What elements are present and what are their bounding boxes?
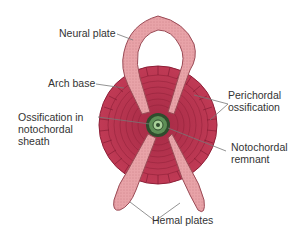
vertebra-diagram: Neural plate Arch base Ossification in n… [0,0,301,236]
label-hemal-plates: Hemal plates [152,214,213,226]
label-ossification-line1: Ossification in [18,111,83,123]
label-notochordal-line1: Notochordal [231,141,288,153]
label-notochordal-line2: remnant [231,153,270,165]
label-ossification-line2: notochordal [18,123,73,135]
label-arch-base: Arch base [48,77,95,89]
notochord-remnant [146,113,170,137]
label-ossification-line3: sheath [18,135,50,147]
label-perichordal-line2: ossification [228,101,280,113]
label-neural-plate: Neural plate [59,27,116,39]
label-perichordal-line1: Perichordal [228,89,281,101]
